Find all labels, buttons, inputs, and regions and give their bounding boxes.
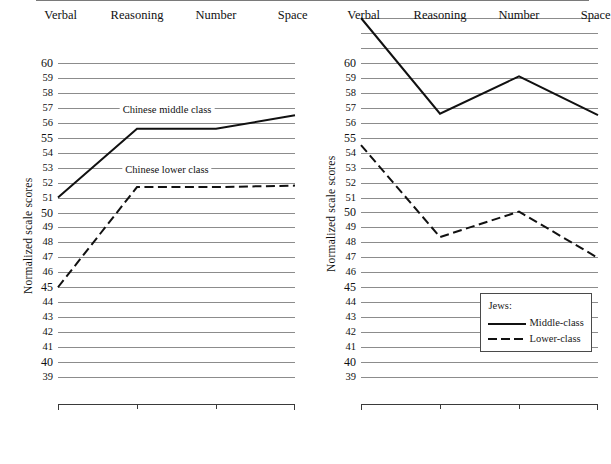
y-axis-tick-label: 53 [346,162,357,173]
x-axis-tick-label: Verbal [44,8,77,23]
x-axis-tick-label: Space [581,8,611,23]
y-axis-tick-label: 48 [346,237,357,248]
y-axis-tick-label: 60 [344,57,356,69]
y-axis-tick-label: 58 [43,88,54,99]
y-axis-tick-label: 44 [43,297,54,308]
y-axis-tick-label: 55 [344,132,356,144]
annotation-chinese-lower-class: Chinese lower class [122,164,211,175]
legend-item-middle-class: Middle-class [488,315,584,330]
y-axis-tick-label: 46 [43,267,54,278]
chart-panel-right: Normalized scale scores 6059585756555453… [303,0,607,464]
y-axis-tick-label: 50 [41,207,53,219]
y-axis-tick-label: 53 [43,162,54,173]
x-axis-tick [294,404,295,410]
chart-panel-left: Normalized scale scores 6059585756555453… [0,0,303,464]
y-axis-tick-label: 39 [43,372,54,383]
y-axis-tick-label: 45 [344,281,356,293]
legend-swatch-solid [488,319,526,328]
footer-rule [36,0,589,1]
y-axis-tick-label: 59 [346,73,357,84]
series-line-solid [361,18,598,115]
x-axis-tick [361,404,362,410]
y-axis-tick-label: 52 [346,177,357,188]
y-axis-tick-label: 55 [41,132,53,144]
y-axis-title-left: Normalized scale scores [22,178,34,294]
y-axis-tick-label: 45 [41,281,53,293]
x-axis-tick-label: Reasoning [414,8,467,23]
y-axis-tick-label: 56 [346,118,357,129]
y-axis-tick-label: 42 [346,327,357,338]
x-axis-tick [519,404,520,409]
y-axis-tick-label: 41 [43,342,54,353]
y-axis-tick-label: 47 [43,252,54,263]
y-axis-tick-label: 41 [346,342,357,353]
y-axis-title-right: Normalized scale scores [325,155,337,271]
x-axis-tick [216,404,217,409]
x-axis-tick [440,404,441,409]
series-line-dashed [58,186,295,288]
x-axis-tick [58,404,59,410]
y-axis-tick-label: 39 [346,372,357,383]
x-axis-line [361,404,598,405]
x-axis-tick-label: Number [196,8,237,23]
legend-title: Jews: [488,298,584,313]
gridline [361,377,598,378]
y-axis-tick-label: 46 [346,267,357,278]
y-axis-tick-label: 40 [41,356,53,368]
y-axis-tick-label: 50 [344,206,356,218]
y-axis-tick-label: 57 [346,103,357,114]
y-axis-tick-label: 58 [346,88,357,99]
y-axis-tick-label: 49 [346,222,357,233]
y-axis-tick-label: 52 [43,177,54,188]
legend-item-lower-class: Lower-class [488,331,584,346]
y-axis-tick-label: 43 [346,312,357,323]
y-axis-tick-label: 51 [346,192,357,203]
x-axis-line [58,404,295,405]
gridline [58,377,295,378]
y-axis-tick-label: 43 [43,312,54,323]
legend-label-lower-class: Lower-class [530,331,581,346]
y-axis-tick-label: 47 [346,252,357,263]
y-axis-tick-label: 51 [43,192,54,203]
x-axis-tick [137,404,138,409]
y-axis-tick-label: 57 [43,103,54,114]
legend-label-middle-class: Middle-class [530,315,584,330]
legend-swatch-dashed [488,334,526,343]
y-axis-tick-label: 56 [43,118,54,129]
x-axis-tick-label: Verbal [347,8,380,23]
y-axis-tick-label: 49 [43,222,54,233]
y-axis-tick-label: 48 [43,237,54,248]
y-axis-tick-label: 59 [43,73,54,84]
series-line-dashed [361,145,598,258]
legend: Jews: Middle-class Lower-class [480,293,592,352]
y-axis-tick-label: 40 [344,356,356,368]
x-axis-tick-label: Number [499,8,540,23]
y-axis-tick-label: 60 [41,57,53,69]
x-axis-tick [597,404,598,410]
y-axis-tick-label: 54 [43,147,54,158]
y-axis-tick-label: 44 [346,297,357,308]
y-axis-tick-label: 42 [43,327,54,338]
y-axis-tick-label: 54 [346,147,357,158]
x-axis-tick-label: Reasoning [111,8,164,23]
series-line-solid [58,115,295,197]
annotation-chinese-middle-class: Chinese middle class [120,104,215,115]
